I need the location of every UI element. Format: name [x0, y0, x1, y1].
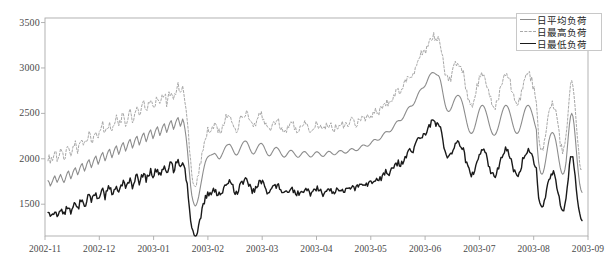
y-tick-label: 2000 [0, 153, 40, 164]
x-tick-label: 2003-07 [449, 244, 509, 254]
x-tick-label: 2002-12 [69, 244, 129, 254]
legend-swatch-min-line-icon [519, 38, 537, 50]
legend-item-min: 日最低负荷 [517, 38, 601, 50]
y-tick-label: 1500 [0, 198, 40, 209]
legend-label-min: 日最低负荷 [537, 37, 587, 51]
x-tick-label: 2003-04 [287, 244, 347, 254]
legend-swatch-avg-line-icon [519, 14, 537, 26]
x-tick-label: 2003-01 [124, 244, 184, 254]
y-tick-label: 3000 [0, 62, 40, 73]
legend-swatch-max-line-icon [519, 26, 537, 38]
load-curve-chart: 15002000250030003500 2002-112002-122003-… [0, 0, 606, 272]
x-tick-label: 2003-05 [341, 244, 401, 254]
x-tick-label: 2002-11 [15, 244, 75, 254]
legend: 日平均负荷 日最高负荷 日最低负荷 [516, 13, 602, 51]
x-tick-label: 2003-02 [178, 244, 238, 254]
y-tick-label: 3500 [0, 17, 40, 28]
y-tick-label: 2500 [0, 107, 40, 118]
x-tick-label: 2003-08 [504, 244, 564, 254]
x-tick-label: 2003-03 [232, 244, 292, 254]
x-tick-label: 2003-09 [558, 244, 606, 254]
x-tick-label: 2003-06 [395, 244, 455, 254]
